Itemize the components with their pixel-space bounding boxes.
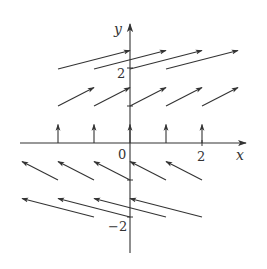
vector-arrow (130, 88, 166, 107)
vector-arrow (202, 88, 238, 107)
x-tick-label-2: 2 (197, 149, 205, 164)
vector-arrow (22, 162, 58, 181)
vector-arrow (130, 199, 202, 218)
vector-arrow (94, 88, 130, 107)
vector-field-plot: y x 0 2 2 −2 (0, 0, 267, 269)
vector-arrow (58, 199, 130, 218)
axes: y x 0 2 2 −2 (20, 21, 246, 253)
x-axis-label: x (236, 147, 244, 163)
y-axis-label: y (113, 21, 123, 37)
vector-arrow (166, 51, 238, 70)
vector-arrow (22, 199, 94, 218)
origin-label: 0 (118, 147, 126, 162)
y-tick-label-neg2: −2 (108, 219, 127, 234)
vector-arrow (130, 162, 166, 181)
vector-arrow (166, 88, 202, 107)
vector-arrow (58, 162, 94, 181)
vector-arrow (94, 162, 130, 181)
vector-arrow (166, 162, 202, 181)
y-tick-label-2: 2 (117, 66, 125, 81)
vector-arrow (58, 88, 94, 107)
vector-arrow (130, 51, 202, 70)
